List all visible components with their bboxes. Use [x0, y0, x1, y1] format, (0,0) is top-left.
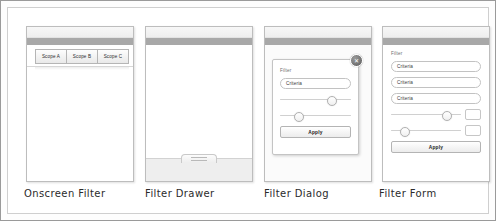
window-chrome-top	[27, 27, 133, 38]
panel-filter-drawer	[145, 26, 253, 182]
slider-track	[391, 130, 461, 132]
dialog-slider-2[interactable]	[280, 110, 351, 121]
panel-filter-dialog: ✕ Filter Criteria	[264, 26, 372, 182]
panel-content-drawer	[146, 45, 252, 181]
caption-filter-form: Filter Form	[379, 188, 437, 199]
criteria-input[interactable]: Criteria	[280, 78, 351, 89]
dialog-slider-1[interactable]	[280, 94, 351, 105]
panel-content-dialog: ✕ Filter Criteria	[265, 45, 371, 181]
tab-scope-a[interactable]: Scope A	[35, 49, 66, 64]
dialog-body: Filter Criteria Apply	[280, 68, 351, 143]
caption-onscreen-filter: Onscreen Filter	[24, 188, 105, 199]
window-chrome-bar	[383, 38, 489, 45]
drawer-grip-line	[191, 160, 207, 161]
apply-button[interactable]: Apply	[391, 141, 481, 153]
form-slider-1[interactable]	[391, 109, 481, 120]
window-chrome-top	[265, 27, 371, 38]
slider-track	[280, 99, 351, 101]
dialog-title-label: Filter	[280, 68, 351, 73]
tab-scope-c[interactable]: Scope C	[97, 49, 129, 64]
filter-dialog: ✕ Filter Criteria	[272, 59, 359, 155]
slider-value-box-1[interactable]	[465, 109, 481, 120]
tab-scope-b[interactable]: Scope B	[66, 49, 97, 64]
criteria-input-1[interactable]: Criteria	[391, 61, 481, 72]
slider-thumb[interactable]	[400, 127, 410, 137]
slider-track	[280, 115, 351, 117]
sheet-inner-border: Scope A Scope B Scope C	[7, 7, 489, 214]
sketch-sheet: Scope A Scope B Scope C	[0, 0, 496, 221]
window-chrome-bar	[27, 38, 133, 45]
slider-value-box-2[interactable]	[465, 125, 481, 136]
tabstrip-shadow	[35, 67, 129, 70]
panel-content-onscreen: Scope A Scope B Scope C	[27, 45, 133, 181]
form-slider-2[interactable]	[391, 125, 481, 136]
panel-onscreen-filter: Scope A Scope B Scope C	[26, 26, 134, 182]
panel-content-form: Filter Criteria Criteria Criteria	[383, 45, 489, 181]
caption-filter-dialog: Filter Dialog	[264, 188, 329, 199]
close-icon[interactable]: ✕	[350, 54, 363, 67]
caption-filter-drawer: Filter Drawer	[145, 188, 215, 199]
slider-thumb[interactable]	[294, 112, 304, 122]
scope-tabstrip: Scope A Scope B Scope C	[35, 49, 129, 64]
panel-filter-form: Filter Criteria Criteria Criteria	[382, 26, 490, 182]
slider-thumb[interactable]	[442, 111, 452, 121]
criteria-input-2[interactable]: Criteria	[391, 77, 481, 88]
slider-track	[391, 114, 461, 116]
drawer-handle[interactable]	[181, 154, 217, 163]
window-chrome-bar	[146, 38, 252, 45]
window-chrome-top	[146, 27, 252, 38]
slider-thumb[interactable]	[327, 96, 337, 106]
drawer-grip-line	[191, 157, 207, 158]
window-chrome-bar	[265, 38, 371, 45]
window-chrome-top	[383, 27, 489, 38]
filter-form: Filter Criteria Criteria Criteria	[391, 51, 481, 158]
form-title-label: Filter	[391, 51, 481, 56]
criteria-input-3[interactable]: Criteria	[391, 93, 481, 104]
apply-button[interactable]: Apply	[280, 126, 351, 138]
